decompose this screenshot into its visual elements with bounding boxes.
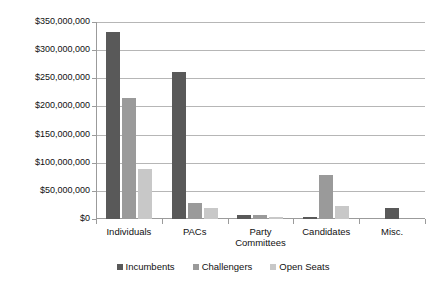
bar bbox=[385, 208, 399, 219]
y-axis-label: $350,000,000 bbox=[2, 17, 90, 26]
category-label: Misc. bbox=[359, 226, 425, 248]
x-axis-tick bbox=[162, 219, 163, 224]
bar-group bbox=[228, 22, 294, 219]
y-axis-label: $100,000,000 bbox=[2, 158, 90, 167]
bar-group bbox=[162, 22, 228, 219]
y-axis-label: $200,000,000 bbox=[2, 101, 90, 110]
bar bbox=[122, 98, 136, 219]
x-axis-tick bbox=[293, 219, 294, 224]
y-axis-label: $0 bbox=[2, 214, 90, 223]
legend-swatch-icon bbox=[193, 264, 199, 270]
bar-group bbox=[96, 22, 162, 219]
category-label: Individuals bbox=[96, 226, 162, 248]
bar bbox=[319, 175, 333, 219]
chart-legend: IncumbentsChallengersOpen Seats bbox=[0, 262, 446, 272]
bar bbox=[253, 215, 267, 220]
bar-group bbox=[359, 22, 425, 219]
legend-swatch-icon bbox=[270, 264, 276, 270]
bar-chart: $0$50,000,000$100,000,000$150,000,000$20… bbox=[0, 0, 446, 289]
category-label: PACs bbox=[162, 226, 228, 248]
bar bbox=[237, 215, 251, 219]
legend-label: Challengers bbox=[202, 262, 253, 272]
x-axis-tick bbox=[359, 219, 360, 224]
category-label: Party Committees bbox=[228, 226, 294, 248]
x-axis-tick bbox=[96, 219, 97, 224]
legend-label: Open Seats bbox=[279, 262, 329, 272]
bar bbox=[204, 208, 218, 219]
bar bbox=[188, 203, 202, 219]
legend-label: Incumbents bbox=[126, 262, 175, 272]
bar bbox=[335, 206, 349, 220]
y-axis-label: $150,000,000 bbox=[2, 130, 90, 139]
bar bbox=[303, 217, 317, 219]
y-axis-label: $50,000,000 bbox=[2, 186, 90, 195]
category-label: Candidates bbox=[293, 226, 359, 248]
bar bbox=[269, 217, 283, 219]
legend-swatch-icon bbox=[117, 264, 123, 270]
y-axis-label: $300,000,000 bbox=[2, 45, 90, 54]
bar bbox=[172, 72, 186, 219]
legend-item: Incumbents bbox=[117, 262, 175, 272]
category-labels: IndividualsPACsParty CommitteesCandidate… bbox=[96, 226, 425, 248]
bar bbox=[106, 32, 120, 219]
bar bbox=[138, 169, 152, 219]
x-axis-tick bbox=[425, 219, 426, 224]
y-axis-label: $250,000,000 bbox=[2, 73, 90, 82]
bar-group bbox=[293, 22, 359, 219]
legend-item: Open Seats bbox=[270, 262, 329, 272]
x-axis-tick bbox=[228, 219, 229, 224]
legend-item: Challengers bbox=[193, 262, 253, 272]
bar-groups bbox=[96, 22, 425, 219]
